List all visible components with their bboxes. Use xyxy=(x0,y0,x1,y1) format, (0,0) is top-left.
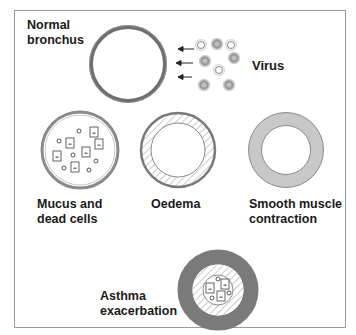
oedema-bronchus-ring xyxy=(141,113,215,187)
label-virus: Virus xyxy=(252,58,284,73)
label-oedema: Oedema xyxy=(151,197,200,212)
arrow-icons xyxy=(176,47,194,80)
bronchus-diagram xyxy=(0,0,356,335)
label-asthma-exacerbation: Asthma exacerbation xyxy=(100,289,177,319)
label-smooth-muscle-contraction: Smooth muscle contraction xyxy=(249,197,342,227)
normal-bronchus-ring xyxy=(90,26,167,103)
label-normal-bronchus: Normal bronchus xyxy=(27,18,84,48)
mucus-bronchus-ring xyxy=(42,112,118,188)
virus-particles-icon xyxy=(196,39,240,91)
smooth-muscle-bronchus-ring xyxy=(249,113,324,188)
asthma-bronchus-ring xyxy=(185,257,251,323)
label-mucus-and-dead-cells: Mucus and dead cells xyxy=(37,197,102,227)
